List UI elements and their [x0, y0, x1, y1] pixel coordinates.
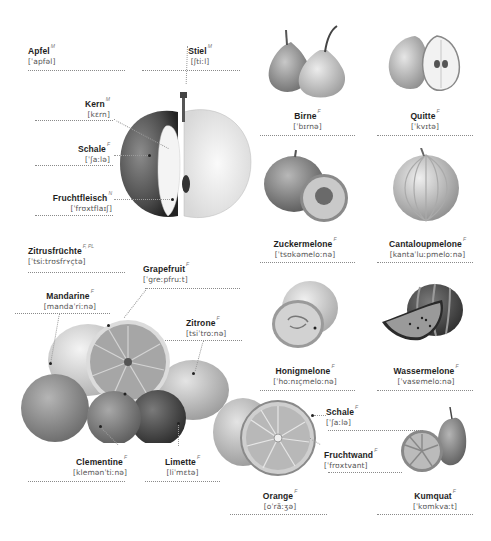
- gender-mark: F: [91, 288, 94, 294]
- ipa: [ʃtiːl]: [170, 58, 230, 67]
- ipa: [ˈbɪrnə]: [265, 123, 350, 132]
- ipa: [ˈfrʊxtvant]: [324, 462, 377, 471]
- gender-mark: F: [355, 404, 358, 410]
- word: Schale: [78, 144, 106, 154]
- label-kumquat: KumquatF [ˈkʊmkvaːt]: [390, 485, 480, 512]
- label-fruchtwand: FruchtwandF [ˈfrʊxtvant]: [324, 444, 377, 471]
- pointer-dot: [49, 362, 52, 365]
- gender-mark: M: [106, 96, 110, 102]
- ipa: [ˈtsʊkəmeloːnə]: [255, 251, 355, 260]
- label-orange: OrangeF [oˈrãːʒə]: [250, 485, 310, 512]
- citrus-illustration: [18, 318, 233, 443]
- gender-mark: F: [463, 236, 466, 242]
- gender-mark: N: [108, 190, 112, 196]
- quince-illustration: [385, 30, 465, 95]
- honeydew-illustration: [270, 278, 340, 350]
- gender-mark: F: [124, 454, 127, 460]
- label-stiel: StielM [ʃtiːl]: [170, 40, 230, 67]
- word: Fruchtfleisch: [53, 193, 108, 203]
- ipa: [oˈrãːʒə]: [250, 503, 310, 512]
- word: Kumquat: [414, 491, 452, 501]
- gender-mark: F: [318, 108, 321, 114]
- pointer-dot: [107, 324, 110, 327]
- writing-line: [145, 288, 240, 289]
- label-zuckermelone: ZuckermeloneF [ˈtsʊkəmeloːnə]: [255, 233, 355, 260]
- label-orange-schale: SchaleF [ˈʃaːlə]: [326, 401, 358, 428]
- pear-illustration: [265, 20, 350, 100]
- label-birne: BirneF [ˈbɪrnə]: [265, 105, 350, 132]
- gender-mark: F: [331, 363, 334, 369]
- writing-line: [260, 262, 355, 263]
- leader-line: [114, 199, 172, 200]
- word: Orange: [263, 491, 293, 501]
- writing-line: [328, 472, 402, 473]
- gender-mark: F: [186, 261, 189, 267]
- ipa: [ˈgreːpfruːt]: [143, 276, 189, 285]
- leader-line: [314, 415, 326, 416]
- writing-line: [35, 120, 113, 121]
- label-limette: LimetteF [liˈmɛtə]: [160, 451, 205, 478]
- writing-line: [28, 481, 125, 482]
- ipa: [ˈhoːnɪçmeloːnə]: [260, 378, 350, 387]
- apple-title: ApfelM [ˈapfəl]: [28, 40, 55, 67]
- label-mandarine: MandarineF [mandaˈriːnə]: [30, 285, 110, 312]
- label-fruchtfleisch: FruchtfleischN [ˈfrʊxtflaɪʃ]: [20, 187, 112, 214]
- word: Stiel: [188, 46, 206, 56]
- ipa: [liˈmɛtə]: [160, 469, 205, 478]
- word: Cantaloupmelone: [389, 239, 462, 249]
- writing-line: [35, 215, 113, 216]
- ipa: [ˈapfəl]: [28, 58, 55, 67]
- gender-mark: M: [51, 43, 55, 49]
- ipa: [klemənˈtiːnə]: [60, 469, 127, 478]
- pointer-dot: [99, 425, 102, 428]
- word: Wassermelone: [394, 366, 455, 376]
- watermelon-illustration: [380, 282, 465, 344]
- pointer-dot: [148, 154, 151, 157]
- writing-line: [35, 165, 113, 166]
- kumquat-illustration: [400, 405, 472, 477]
- label-quitte: QuitteF [ˈkvɪtə]: [380, 105, 470, 132]
- label-wassermelone: WassermeloneF [ˈvasɐmeloːnə]: [377, 360, 475, 387]
- pointer-dot: [177, 422, 180, 425]
- word: Zitrusfrüchte: [28, 246, 82, 256]
- gender-mark: F, PL: [83, 243, 94, 249]
- label-grapefruit: GrapefruitF [ˈgreːpfruːt]: [143, 258, 189, 285]
- writing-line: [230, 514, 327, 515]
- writing-line: [145, 481, 220, 482]
- label-kern: KernM [kɛrn]: [50, 93, 110, 120]
- gender-mark: M: [208, 43, 212, 49]
- leader-line: [178, 424, 179, 446]
- word: Clementine: [76, 457, 123, 467]
- label-honigmelone: HonigmeloneF [ˈhoːnɪçmeloːnə]: [260, 360, 350, 387]
- word: Kern: [85, 99, 105, 109]
- ipa: [ˈfrʊxtflaɪʃ]: [20, 205, 112, 214]
- orange-illustration: [213, 392, 325, 482]
- gender-mark: F: [374, 447, 377, 453]
- gender-mark: F: [333, 236, 336, 242]
- ipa: [ˈkʊmkvaːt]: [390, 503, 480, 512]
- apple-illustration: [118, 84, 253, 224]
- cantaloupe-illustration: [390, 148, 462, 223]
- writing-line: [142, 70, 240, 71]
- label-schale: SchaleF [ˈʃaːlə]: [50, 138, 110, 165]
- word: Schale: [326, 407, 354, 417]
- ipa: [ˈʃaːlə]: [326, 419, 358, 428]
- label-clementine: ClementineF [klemənˈtiːnə]: [60, 451, 127, 478]
- writing-line: [377, 514, 473, 515]
- writing-line: [28, 70, 125, 71]
- gender-mark: F: [197, 454, 200, 460]
- leader-line: [114, 155, 150, 156]
- ipa: [ˈkvɪtə]: [380, 123, 470, 132]
- ipa: [ˈtsiːtrʊsfrʏçtə]: [28, 258, 94, 267]
- writing-line: [260, 390, 355, 391]
- writing-line: [377, 135, 473, 136]
- word: Apfel: [28, 46, 50, 56]
- word: Grapefruit: [143, 264, 185, 274]
- ipa: [ˈvasɐmeloːnə]: [377, 378, 475, 387]
- writing-line: [377, 390, 473, 391]
- word: Honigmelone: [276, 366, 331, 376]
- gender-mark: F: [107, 141, 110, 147]
- sugar-melon-illustration: [262, 150, 352, 225]
- word: Birne: [294, 111, 316, 121]
- word: Mandarine: [46, 291, 89, 301]
